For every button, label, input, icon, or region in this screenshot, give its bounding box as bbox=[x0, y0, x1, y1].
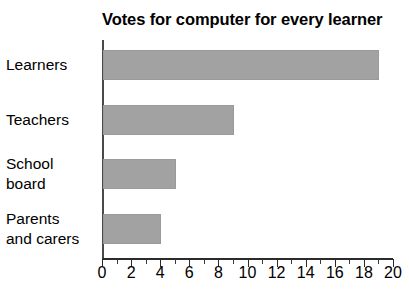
bar-row bbox=[103, 105, 234, 135]
bar-row bbox=[103, 214, 161, 244]
bar-learners bbox=[103, 50, 379, 80]
category-label-line: and carers bbox=[6, 229, 98, 249]
category-label-line: Teachers bbox=[6, 110, 98, 130]
category-label-learners: Learners bbox=[6, 55, 98, 75]
category-label-line: Parents bbox=[6, 209, 98, 229]
bar-row bbox=[103, 159, 176, 189]
category-label-line: School bbox=[6, 154, 98, 174]
category-label-line: board bbox=[6, 174, 98, 194]
category-label-teachers: Teachers bbox=[6, 110, 98, 130]
category-label-school-board: School board bbox=[6, 154, 98, 194]
category-label-line: Learners bbox=[6, 55, 98, 75]
x-tick-label: 20 bbox=[373, 264, 409, 282]
bar-school-board bbox=[103, 159, 176, 189]
bar-teachers bbox=[103, 105, 234, 135]
category-label-parents-and-carers: Parents and carers bbox=[6, 209, 98, 249]
chart-title: Votes for computer for every learner bbox=[102, 10, 402, 29]
bar-chart-figure: Votes for computer for every learner Lea… bbox=[0, 0, 409, 298]
plot-area bbox=[102, 40, 393, 258]
bar-parents-and-carers bbox=[103, 214, 161, 244]
bar-row bbox=[103, 50, 379, 80]
